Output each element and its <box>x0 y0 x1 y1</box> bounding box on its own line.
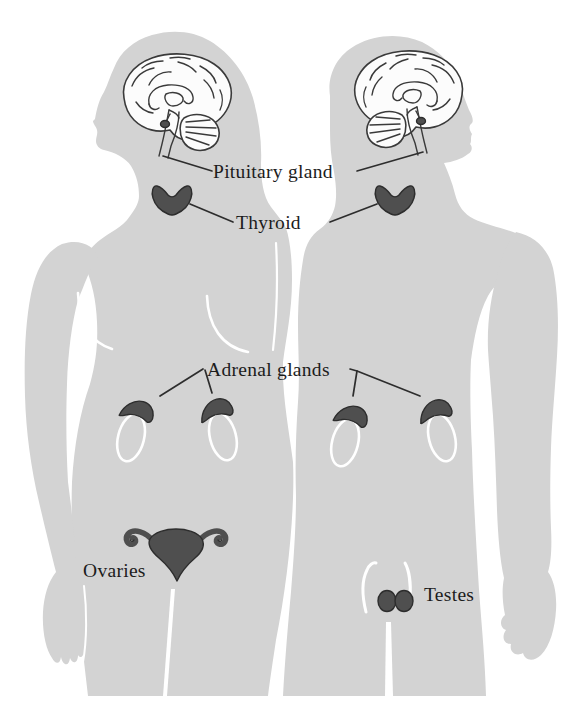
male-right-arm <box>488 232 558 660</box>
thyroid-label: Thyroid <box>236 212 301 233</box>
endocrine-diagram: Pituitary gland Thyroid Adrenal glands O… <box>0 0 586 725</box>
testes-label: Testes <box>424 584 474 605</box>
adrenal-glands-label: Adrenal glands <box>207 359 330 380</box>
pituitary-gland-label: Pituitary gland <box>213 161 333 182</box>
diagram-canvas: Pituitary gland Thyroid Adrenal glands O… <box>0 0 586 725</box>
ovaries-label: Ovaries <box>83 560 146 581</box>
